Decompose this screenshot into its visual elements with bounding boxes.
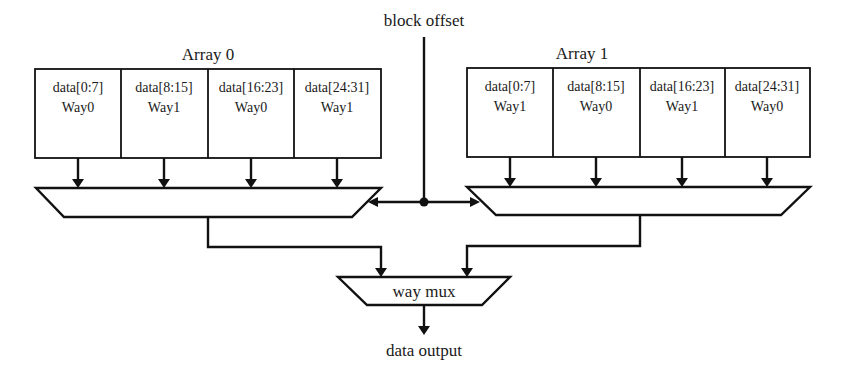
array-1: Array 1 data[0:7] Way1 data[8:15] Way0 d… <box>467 44 810 215</box>
array-0-cell-2-way: Way0 <box>235 100 267 115</box>
array-0-mux-output-wire <box>208 217 381 268</box>
array-1-cell-3-way: Way0 <box>751 99 783 114</box>
arrow-down-icon <box>461 268 473 277</box>
array-1-mux <box>467 187 810 215</box>
array-0-title: Array 0 <box>182 45 234 64</box>
arrow-down-icon <box>761 178 773 187</box>
arrow-down-icon <box>676 178 688 187</box>
array-0-cell-0-way: Way0 <box>62 100 94 115</box>
way-mux-label: way mux <box>393 282 456 301</box>
array-0-cell-3-way: Way1 <box>321 100 353 115</box>
array-1-mux-output-wire <box>467 215 640 268</box>
array-0-cell-1-way: Way1 <box>148 100 180 115</box>
arrow-down-icon <box>158 179 170 188</box>
arrow-down-icon <box>375 268 387 277</box>
array-0-mux <box>36 188 381 217</box>
arrow-down-icon <box>590 178 602 187</box>
block-offset-label: block offset <box>384 11 465 30</box>
array-0-cell-3-data: data[24:31] <box>305 80 370 95</box>
array-1-cell-0-way: Way1 <box>494 99 526 114</box>
arrow-down-icon <box>418 326 430 335</box>
array-0-cell-0-data: data[0:7] <box>53 80 104 95</box>
array-1-cell-1-way: Way0 <box>580 99 612 114</box>
arrow-down-icon <box>72 179 84 188</box>
array-1-cell-2-data: data[16:23] <box>650 79 715 94</box>
arrow-down-icon <box>504 178 516 187</box>
array-0: Array 0 data[0:7] Way0 data[8:15] Way1 d… <box>35 45 381 217</box>
array-1-cell-1-data: data[8:15] <box>567 79 625 94</box>
array-1-cell-3-data: data[24:31] <box>735 79 800 94</box>
array-1-title: Array 1 <box>556 44 608 63</box>
cache-diagram: block offset Array 0 data[0:7] Way0 data… <box>0 0 841 376</box>
array-1-cell-0-data: data[0:7] <box>485 79 536 94</box>
data-output-label: data output <box>386 341 462 360</box>
arrow-down-icon <box>331 179 343 188</box>
arrow-down-icon <box>245 179 257 188</box>
array-1-cell-2-way: Way1 <box>666 99 698 114</box>
array-0-cell-1-data: data[8:15] <box>135 80 193 95</box>
array-0-cell-2-data: data[16:23] <box>219 80 284 95</box>
